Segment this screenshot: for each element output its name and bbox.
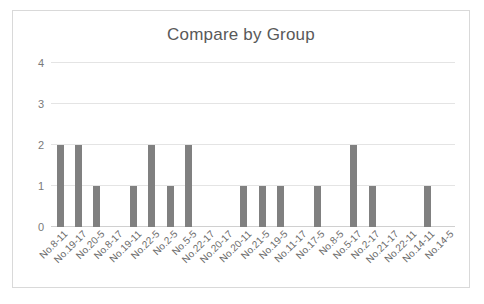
chart-title: Compare by Group (13, 25, 469, 45)
bar-slot (180, 63, 198, 227)
y-axis-tick-label: 2 (38, 139, 44, 151)
bar-slot (235, 63, 253, 227)
x-label-slot: No.5-17 (345, 229, 363, 291)
x-axis-labels: No.8-11No.19-17No.20-5No.8-17No.19-11No.… (51, 229, 455, 291)
x-label-slot: No.19-11 (124, 229, 142, 291)
y-axis-tick-label: 3 (38, 98, 44, 110)
bar-slot (124, 63, 142, 227)
chart-container: Compare by Group 01234 No.8-11No.19-17No… (12, 10, 470, 288)
bar-slot (88, 63, 106, 227)
y-axis-tick-label: 0 (38, 221, 44, 233)
bar-slot (290, 63, 308, 227)
bar-slot (271, 63, 289, 227)
x-label-slot: No.19-17 (69, 229, 87, 291)
bar-slot (418, 63, 436, 227)
x-label-slot: No.22-5 (143, 229, 161, 291)
x-label-slot: No.17-5 (308, 229, 326, 291)
x-label-slot: No.14-11 (418, 229, 436, 291)
x-label-slot: No.8-5 (326, 229, 344, 291)
bar-slot (400, 63, 418, 227)
bar-slot (143, 63, 161, 227)
x-label-slot: No.11-17 (290, 229, 308, 291)
bar[interactable] (57, 145, 64, 227)
x-label-slot: No.2-5 (161, 229, 179, 291)
bar-slot (345, 63, 363, 227)
x-label-slot: No.21-5 (253, 229, 271, 291)
x-label-slot: No.20-5 (88, 229, 106, 291)
bar-slot (363, 63, 381, 227)
bar-slot (51, 63, 69, 227)
bar-slot (253, 63, 271, 227)
x-label-slot: No.20-11 (235, 229, 253, 291)
y-axis-tick-label: 4 (38, 57, 44, 69)
y-axis-tick-label: 1 (38, 180, 44, 192)
bar-slot (106, 63, 124, 227)
bar-slot (308, 63, 326, 227)
bar-slot (198, 63, 216, 227)
x-label-slot: No.14-5 (437, 229, 455, 291)
bar-slot (381, 63, 399, 227)
bar-slot (161, 63, 179, 227)
bar-slot (69, 63, 87, 227)
bar-slot (437, 63, 455, 227)
bar-slot (326, 63, 344, 227)
bar-slot (216, 63, 234, 227)
